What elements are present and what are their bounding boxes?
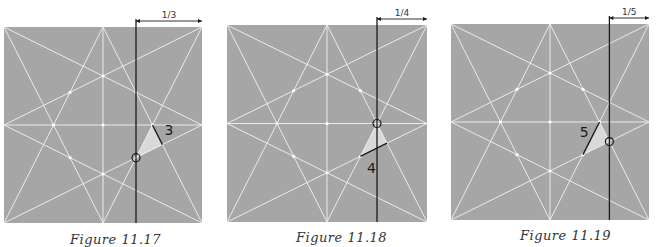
intersection-dot [101,172,104,175]
intersection-dot [548,71,551,74]
figure-fig-11-18: 1/44 [227,25,427,222]
intersection-dot [548,169,551,172]
crease-pattern-diagram: 1/33 [4,27,202,223]
intersection-dot [52,123,55,126]
intersection-dot [515,153,518,156]
dimension-label: 1/3 [162,10,176,20]
dimension-label: 1/4 [395,8,410,18]
figure-fig-11-19: 1/55 [451,24,649,220]
arrowhead-right-icon [645,16,649,20]
intersection-dot [325,73,328,76]
intersection-dot [292,155,295,158]
step-number-label: 4 [367,160,376,176]
figure-fig-11-17: 1/33 [4,27,202,223]
crease-pattern-diagram: 1/44 [227,25,427,222]
figure-caption: Figure 11.18 [296,230,387,245]
intersection-dot [581,88,584,91]
intersection-dot [275,122,278,125]
intersection-dot [499,120,502,123]
step-number-label: 5 [580,124,589,140]
intersection-dot [548,120,551,123]
figure-caption: Figure 11.17 [70,232,161,247]
step-number-label: 3 [164,122,173,138]
intersection-dot [292,89,295,92]
arrowhead-right-icon [198,19,202,23]
intersection-dot [325,171,328,174]
intersection-dot [68,156,71,159]
intersection-dot [101,123,104,126]
intersection-dot [68,91,71,94]
crease-pattern-diagram: 1/55 [451,24,649,220]
intersection-dot [515,88,518,91]
figure-caption: Figure 11.19 [520,228,611,243]
intersection-dot [325,122,328,125]
intersection-dot [101,74,104,77]
arrowhead-right-icon [423,17,427,21]
intersection-dot [359,89,362,92]
dimension-label: 1/5 [622,7,636,17]
